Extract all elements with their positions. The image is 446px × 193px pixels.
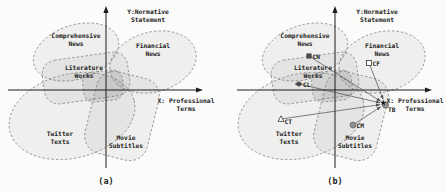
region-label-movie-subtitles: Movie [346, 134, 365, 141]
y-axis-label: Statement [131, 16, 165, 23]
x-axis-label: Terms [177, 105, 196, 112]
marker-cf [367, 61, 372, 66]
region-label-comprehensive-news: News [68, 40, 83, 47]
region-label-literature-works: Works [75, 72, 94, 79]
caption-a: (a) [98, 176, 113, 186]
figure-svg: Y:NormativeStatementX: ProfessionalTerms… [0, 0, 446, 193]
marker-label-cf: CF [373, 60, 381, 67]
x-axis-arrow-icon [196, 87, 203, 92]
marker-label-ct: CT [285, 118, 293, 125]
y-axis-arrow-icon [332, 6, 337, 13]
region-label-financial-news: News [374, 50, 389, 57]
region-label-literature-works: Works [304, 72, 323, 79]
region-label-comprehensive-news: News [297, 40, 312, 47]
marker-label-tb: TB [388, 106, 396, 113]
region-label-literature-works: Literature [65, 64, 103, 71]
region-label-financial-news: News [145, 50, 160, 57]
marker-cn [307, 54, 311, 58]
x-axis-arrow-icon [425, 87, 432, 92]
x-axis-label: X: Professional [158, 97, 215, 104]
marker-label-cm: CM [357, 122, 365, 129]
figure-corpus-distribution: Y:NormativeStatementX: ProfessionalTerms… [0, 0, 446, 193]
subplot-b: Y:NormativeStatementX: ProfessionalTerms… [229, 6, 444, 186]
region-label-movie-subtitles: Subtitles [338, 142, 372, 149]
y-axis-arrow-icon [103, 6, 108, 13]
region-label-twitter-texts: Texts [280, 138, 299, 145]
region-label-movie-subtitles: Movie [117, 134, 136, 141]
region-label-financial-news: Financial [365, 42, 399, 49]
region-label-comprehensive-news: Comprehensive [280, 32, 329, 40]
region-label-comprehensive-news: Comprehensive [51, 32, 100, 40]
subplot-a: Y:NormativeStatementX: ProfessionalTerms… [0, 6, 215, 186]
marker-label-cl: CL [303, 81, 311, 88]
y-axis-label: Y:Normative [127, 8, 169, 15]
x-axis-label: Terms [406, 105, 425, 112]
marker-cm [350, 122, 356, 128]
region-label-twitter-texts: Texts [51, 138, 70, 145]
y-axis-label: Y:Normative [356, 8, 398, 15]
region-label-twitter-texts: Twitter [276, 130, 303, 137]
marker-label-cn: CN [313, 53, 321, 60]
x-axis-label: X: Professional [387, 97, 444, 104]
y-axis-label: Statement [360, 16, 394, 23]
region-label-literature-works: Literature [294, 64, 332, 71]
caption-b: (b) [327, 176, 342, 186]
region-label-financial-news: Financial [136, 42, 170, 49]
region-label-movie-subtitles: Subtitles [109, 142, 143, 149]
region-label-twitter-texts: Twitter [47, 130, 74, 137]
